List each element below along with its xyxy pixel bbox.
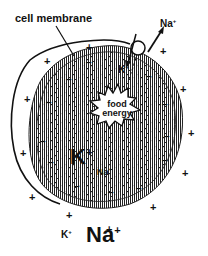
cell-diagram: [0, 0, 208, 256]
positive-charge-icon: +: [20, 148, 26, 159]
positive-charge-icon: +: [29, 192, 35, 203]
negative-charge-icon: −: [146, 72, 152, 82]
inside-k-label: K+: [70, 146, 92, 168]
outside-k-label: K+: [61, 229, 72, 240]
pump-na-label: Na+: [160, 18, 176, 29]
outside-na-label: Na+: [86, 224, 121, 246]
inside-k-sup: +: [86, 146, 92, 158]
negative-charge-icon: −: [74, 182, 80, 192]
positive-charge-icon: +: [24, 94, 30, 105]
negative-charge-icon: −: [162, 156, 168, 166]
inside-k-text: K: [70, 144, 86, 169]
negative-charge-icon: −: [46, 98, 52, 108]
outside-k-sup: +: [68, 229, 72, 235]
pump-na-text: Na: [160, 18, 173, 29]
pump-na-sup: +: [173, 18, 177, 24]
inside-na-text: Na: [97, 167, 109, 177]
positive-charge-icon: +: [106, 224, 112, 235]
negative-charge-icon: −: [108, 188, 114, 198]
negative-charge-icon: −: [86, 58, 92, 68]
negative-charge-icon: −: [162, 100, 168, 110]
pump-k-sup: +: [125, 64, 129, 70]
positive-charge-icon: +: [44, 56, 50, 67]
positive-charge-icon: +: [66, 210, 72, 221]
negative-charge-icon: −: [40, 137, 46, 147]
membrane-pointer-line: [56, 26, 74, 56]
food-energy-label: food energy: [100, 100, 134, 118]
outside-na-sup: +: [114, 224, 120, 236]
negative-charge-icon: −: [66, 75, 72, 85]
cell-membrane-label: cell membrane: [15, 13, 92, 24]
negative-charge-icon: −: [164, 132, 170, 142]
positive-charge-icon: +: [188, 128, 194, 139]
inside-na-sup: +: [109, 166, 113, 172]
cytoplasm: [37, 52, 176, 202]
negative-charge-icon: −: [48, 158, 54, 168]
food-energy-line2: energy: [100, 109, 134, 118]
positive-charge-icon: +: [182, 168, 188, 179]
positive-charge-icon: +: [86, 42, 92, 53]
inside-na-label: Na+: [97, 166, 112, 177]
negative-charge-icon: −: [136, 184, 142, 194]
positive-charge-icon: +: [180, 84, 186, 95]
positive-charge-icon: +: [150, 202, 156, 213]
positive-charge-icon: +: [160, 46, 166, 57]
pump-k-label: K+: [118, 64, 129, 75]
